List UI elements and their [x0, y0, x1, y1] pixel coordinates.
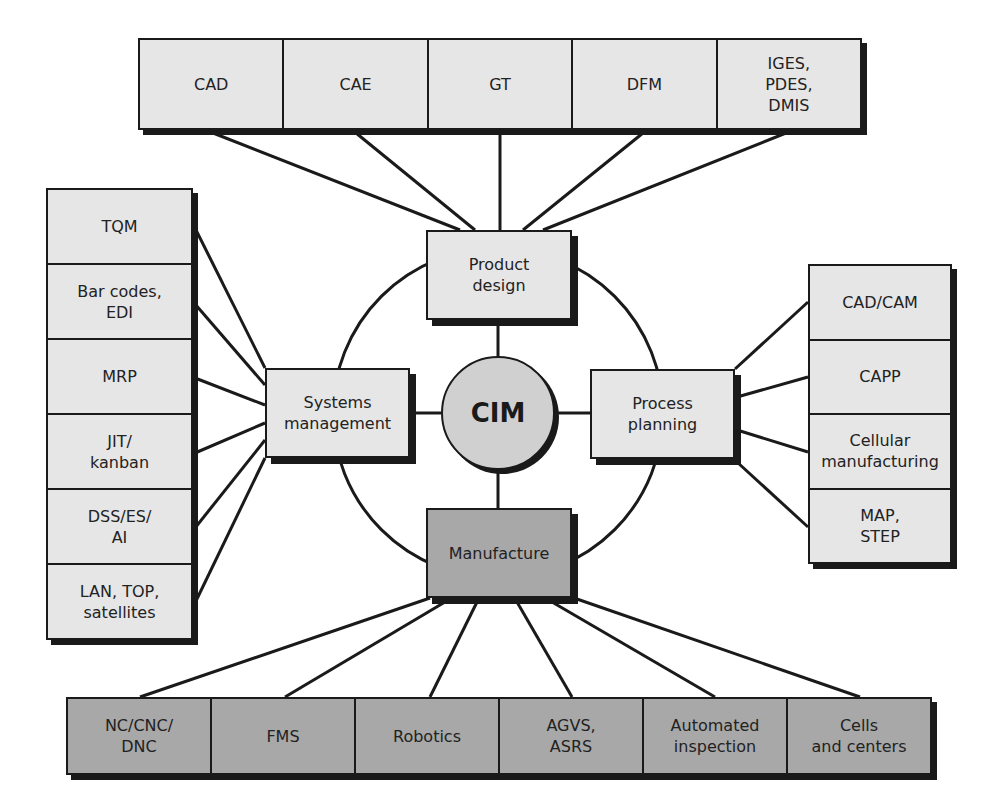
node-jit-kanban: JIT/ kanban: [48, 415, 191, 490]
node-dss-es-ai: DSS/ES/ AI: [48, 490, 191, 565]
node-gt: GT: [429, 40, 573, 128]
node-cad: CAD: [140, 40, 284, 128]
node-dfm: DFM: [573, 40, 717, 128]
process-planning-tools-column: CAD/CAM CAPP Cellular manufacturing MAP,…: [808, 264, 952, 564]
node-agvs-asrs: AGVS, ASRS: [500, 699, 644, 773]
node-map-step: MAP, STEP: [810, 490, 950, 563]
node-tqm: TQM: [48, 190, 191, 265]
hub-product-design: Product design: [426, 230, 572, 320]
node-automated-inspection: Automated inspection: [644, 699, 788, 773]
node-cad-cam: CAD/CAM: [810, 266, 950, 341]
node-robotics: Robotics: [356, 699, 500, 773]
node-iges-pdes-dmis: IGES, PDES, DMIS: [718, 40, 860, 128]
node-mrp: MRP: [48, 340, 191, 415]
manufacture-tools-row: NC/CNC/ DNC FMS Robotics AGVS, ASRS Auto…: [66, 697, 932, 775]
node-fms: FMS: [212, 699, 356, 773]
node-capp: CAPP: [810, 341, 950, 416]
product-design-tools-row: CAD CAE GT DFM IGES, PDES, DMIS: [138, 38, 862, 130]
node-cellular-manufacturing: Cellular manufacturing: [810, 415, 950, 490]
systems-management-tools-column: TQM Bar codes, EDI MRP JIT/ kanban DSS/E…: [46, 188, 193, 640]
hub-systems-management: Systems management: [265, 368, 410, 458]
node-lan-top-satellites: LAN, TOP, satellites: [48, 565, 191, 638]
hub-manufacture: Manufacture: [426, 508, 572, 598]
node-bar-codes-edi: Bar codes, EDI: [48, 265, 191, 340]
hub-process-planning: Process planning: [590, 369, 735, 459]
node-cae: CAE: [284, 40, 428, 128]
node-nc-cnc-dnc: NC/CNC/ DNC: [68, 699, 212, 773]
node-cells-and-centers: Cells and centers: [788, 699, 930, 773]
cim-center-node: CIM: [441, 356, 555, 470]
